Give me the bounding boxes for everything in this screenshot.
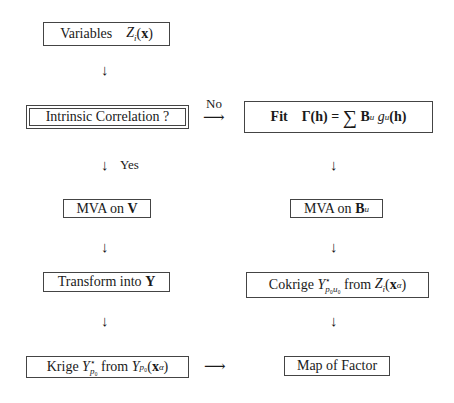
node-label: Fit [271, 109, 288, 125]
node-map-of-factor: Map of Factor [284, 356, 390, 376]
node-label: Intrinsic Correlation ? [46, 109, 170, 125]
arrow-right-krige-to-map: ⟶ [204, 359, 226, 374]
from-label: from [344, 277, 371, 293]
arrow-down-6: ↓ [101, 314, 109, 329]
arrow-down-2: ↓ [101, 158, 109, 173]
node-transform: Transform into Y [43, 272, 170, 292]
node-fit: Fit Γ(h) = ∑ Bu gu(h) [244, 101, 433, 133]
node-label: MVA on [76, 201, 124, 217]
node-label: Transform into [58, 274, 142, 290]
node-cokrige: Cokrige Y⋆p₀u₀ from Zi(xα) [246, 272, 429, 298]
from-label: from [101, 359, 128, 375]
node-label: Map of Factor [297, 358, 377, 374]
node-label: MVA on [304, 201, 352, 217]
arrow-down-5: ↓ [330, 240, 338, 255]
arrow-right-no: ⟶ [203, 110, 225, 125]
arrow-down-7: ↓ [330, 314, 338, 329]
node-mva-v: MVA on V [63, 199, 151, 218]
node-label: Variables [60, 26, 112, 42]
node-label: Krige [47, 359, 79, 375]
node-krige: Krige Y⋆p₀ from Yp₀(xα) [26, 356, 189, 378]
math-z: Zi [126, 25, 136, 43]
arrow-down-1: ↓ [101, 63, 109, 78]
math-y: Y [145, 274, 155, 290]
node-variables: VariablesZi(x) [43, 22, 170, 46]
edge-label-yes: Yes [120, 157, 139, 173]
node-label: Cokrige [269, 277, 314, 293]
node-mva-bu: MVA on Bu [290, 199, 383, 218]
math-v: V [127, 201, 137, 217]
arrow-down-3: ↓ [330, 158, 338, 173]
node-intrinsic-correlation: Intrinsic Correlation ? [26, 105, 189, 129]
arrow-down-4: ↓ [101, 240, 109, 255]
